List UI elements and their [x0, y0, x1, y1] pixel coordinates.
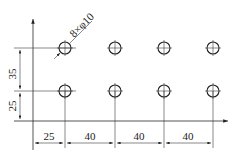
- vertical-dimensions: 35 25: [6, 50, 20, 119]
- hole-callout-text: 8×φ10: [67, 10, 96, 39]
- dim-horizontal-25: 25: [44, 130, 56, 142]
- dim-horizontal-40-b: 40: [134, 130, 146, 142]
- dim-vertical-25: 25: [6, 100, 18, 112]
- hole-icon: [156, 83, 172, 99]
- hole-icon: [205, 40, 221, 56]
- hole-icon: [107, 83, 123, 99]
- dim-vertical-35: 35: [6, 68, 18, 80]
- holes: [57, 40, 221, 99]
- dim-horizontal-40-a: 40: [85, 130, 97, 142]
- row-extension-lines: [14, 48, 76, 91]
- technical-drawing: 35 25 25 40 40 40: [0, 0, 239, 154]
- hole-icon: [107, 40, 123, 56]
- hole-icon: [205, 83, 221, 99]
- hole-icon: [156, 40, 172, 56]
- hole-icon: [57, 83, 73, 99]
- horizontal-dimensions: 25 40 40 40: [35, 130, 211, 143]
- dim-horizontal-40-c: 40: [183, 130, 195, 142]
